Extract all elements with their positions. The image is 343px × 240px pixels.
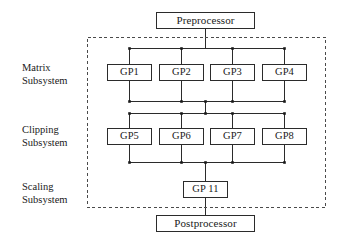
junction-dot — [180, 112, 183, 115]
junction-dot — [128, 161, 131, 164]
node-gp1[interactable]: GP1 — [107, 64, 152, 81]
junction-dot — [128, 112, 131, 115]
junction-dot — [231, 161, 234, 164]
diagram-canvas: Matrix Subsystem Clipping Subsystem Scal… — [0, 0, 343, 240]
junction-dot — [204, 112, 207, 115]
node-gp11[interactable]: GP 11 — [183, 181, 228, 198]
junction-dot — [180, 161, 183, 164]
node-gp3[interactable]: GP3 — [210, 64, 255, 81]
node-gp5[interactable]: GP5 — [107, 128, 152, 145]
junction-dot — [180, 47, 183, 50]
subsystem-label-matrix: Matrix Subsystem — [22, 62, 68, 87]
junction-dot — [231, 47, 234, 50]
junction-dot — [204, 100, 207, 103]
junction-dot — [128, 100, 131, 103]
node-postprocessor[interactable]: Postprocessor — [156, 215, 255, 232]
junction-dot — [283, 100, 286, 103]
subsystem-label-scaling: Scaling Subsystem — [22, 181, 68, 206]
junction-dot — [283, 161, 286, 164]
node-gp2[interactable]: GP2 — [159, 64, 204, 81]
junction-dot — [204, 161, 207, 164]
subsystem-label-clipping: Clipping Subsystem — [22, 124, 68, 149]
node-gp6[interactable]: GP6 — [159, 128, 204, 145]
junction-dot — [283, 47, 286, 50]
node-gp7[interactable]: GP7 — [210, 128, 255, 145]
junction-dot — [231, 112, 234, 115]
node-gp8[interactable]: GP8 — [262, 128, 307, 145]
node-gp4[interactable]: GP4 — [262, 64, 307, 81]
junction-dot — [283, 112, 286, 115]
node-preprocessor[interactable]: Preprocessor — [156, 12, 255, 29]
junction-dot — [231, 100, 234, 103]
junction-dot — [180, 100, 183, 103]
junction-dot — [128, 47, 131, 50]
